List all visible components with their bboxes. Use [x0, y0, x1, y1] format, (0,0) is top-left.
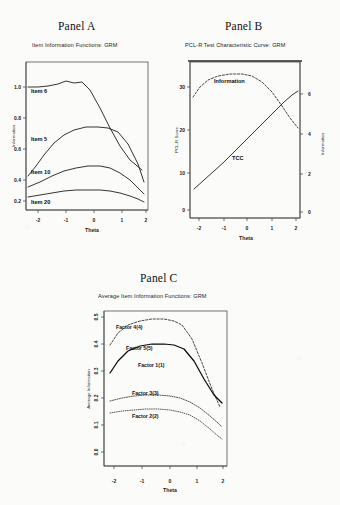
panel-b-x-axis: -2 -1 0 1 2 Theta [190, 218, 300, 241]
panel-c-label-factor3: Factor 3(3) [132, 390, 159, 396]
panel-c-ytick-2: 0.4 [93, 340, 99, 347]
panel-c-xtick-3: 0 [169, 478, 172, 484]
panel-b-frame [190, 62, 300, 218]
panel-c-curve-factor3 [110, 395, 222, 427]
panel-a-curve-item6 [28, 81, 142, 170]
panel-c-xtick-1: -2 [112, 478, 117, 484]
panel-b-title: PCL-R Test Characteristic Curve: GRM [185, 42, 285, 48]
panel-b-ytick-left-1: 30 [179, 84, 185, 90]
panel-b-xlabel: Theta [239, 235, 253, 241]
panel-b-ytick-right-2: 4 [308, 131, 311, 137]
panel-b-ytick-right-3: 2 [308, 171, 311, 177]
panel-b-plot: 30 20 10 0 PCL-R Score 6 4 2 0 Informati… [172, 52, 340, 242]
panel-b-ytick-left-2: 20 [179, 127, 185, 133]
panel-a-xlabel: Theta [85, 227, 99, 233]
panel-a-plot: 1.0 0.8 0.6 0.4 0.2 Information -2 -1 0 … [8, 52, 168, 242]
panel-c-title: Average Item Information Functions: GRM [98, 293, 207, 299]
panel-b-xtick-1: -2 [197, 225, 202, 231]
panel-a-xtick-4: 1 [121, 217, 124, 223]
panel-b-ytick-right-4: 0 [308, 209, 311, 215]
panel-b-ytick-left-3: 10 [179, 170, 185, 176]
panel-c-ytick-4: 0.2 [93, 394, 99, 401]
panel-a-label-item5: Item 5 [31, 136, 47, 142]
panel-a-x-axis: -2 -1 0 1 2 Theta [26, 210, 148, 233]
panel-a-xtick-1: -2 [36, 217, 41, 223]
panel-b-curve-tcc [194, 91, 298, 189]
panel-c-curve-factor2 [110, 409, 222, 439]
panel-c-ylabel: Average Information [86, 369, 91, 409]
panel-a-ytick-5: 0.2 [14, 198, 21, 204]
panel-a-xtick-2: -1 [64, 217, 69, 223]
panel-b-xtick-5: 2 [295, 225, 298, 231]
panel-a-label-item6: Item 6 [31, 88, 47, 94]
panel-b-ytick-left-4: 0 [182, 207, 185, 213]
panel-c-ytick-5: 0.1 [93, 421, 99, 428]
panel-c-y-axis: 0.5 0.4 0.3 0.2 0.1 0.0 Average Informat… [86, 311, 104, 466]
panel-c-frame [104, 311, 227, 466]
panel-b-ylabel-right: Information [320, 132, 325, 155]
panel-a-xtick-5: 2 [145, 217, 148, 223]
panel-b-y-axis-right: 6 4 2 0 Information [300, 62, 325, 218]
panel-a-title: Item Information Functions: GRM [32, 42, 117, 48]
panel-c-curve-factor5 [110, 344, 222, 403]
panel-c-ytick-6: 0.0 [93, 448, 99, 455]
panel-a-ytick-4: 0.4 [14, 177, 21, 183]
panel-a-ylabel: Information [11, 124, 16, 147]
panel-c-ytick-1: 0.5 [93, 313, 99, 320]
panel-b-label-tcc: TCC [232, 155, 244, 161]
panel-c-label-factor4: Factor 4(4) [116, 324, 143, 330]
panel-c-xlabel: Theta [163, 487, 177, 493]
panel-b-curve-information [193, 74, 298, 128]
panel-c-label-factor1: Factor 1(1) [138, 362, 165, 368]
panel-a-xtick-3: 0 [93, 217, 96, 223]
panel-c-label-factor2: Factor 2(2) [132, 413, 159, 419]
panel-b-y-axis-left: 30 20 10 0 PCL-R Score [174, 62, 190, 218]
panel-c-label-factor5: Factor 5(5) [126, 345, 153, 351]
panel-c-xtick-4: 1 [196, 478, 199, 484]
panel-c-xtick-2: -1 [140, 478, 145, 484]
panel-b-heading: Panel B [225, 20, 263, 32]
panel-a-ytick-2: 0.8 [14, 115, 21, 121]
panel-b-label-information: Information [214, 78, 245, 84]
panel-c-ytick-3: 0.3 [93, 367, 99, 374]
panel-c-xtick-5: 2 [222, 478, 225, 484]
panel-c-heading: Panel C [140, 272, 178, 284]
panel-a-ytick-1: 1.0 [14, 84, 21, 90]
panel-a-label-item20: Item 20 [31, 199, 50, 205]
panel-c-x-axis: -2 -1 0 1 2 Theta [104, 466, 227, 493]
panel-b-xtick-2: -1 [222, 225, 227, 231]
panel-a-y-axis: 1.0 0.8 0.6 0.4 0.2 Information [11, 62, 26, 210]
panel-c-curve-factor4 [110, 319, 220, 407]
panel-c-plot: 0.5 0.4 0.3 0.2 0.1 0.0 Average Informat… [82, 303, 262, 503]
panel-b-xtick-3: 0 [246, 225, 249, 231]
panel-b-ytick-right-1: 6 [308, 91, 311, 97]
panel-a-label-item10: Item 10 [31, 169, 50, 175]
panel-b-xtick-4: 1 [271, 225, 274, 231]
panel-a-heading: Panel A [58, 20, 96, 32]
panel-b-ylabel-left: PCL-R Score [174, 127, 179, 153]
